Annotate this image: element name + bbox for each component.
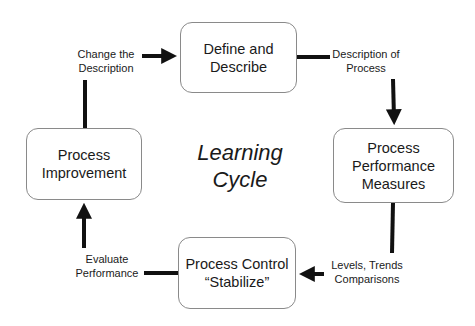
node-label: Define and Describe bbox=[203, 40, 273, 76]
node-process-improvement: Process Improvement bbox=[26, 128, 142, 200]
edge-label-change-description: Change the Description bbox=[70, 47, 142, 75]
node-process-performance-measures: Process Performance Measures bbox=[333, 128, 454, 203]
diagram-title: Learning Cycle bbox=[180, 139, 300, 193]
node-label: Process Control “Stabilize” bbox=[185, 255, 288, 291]
arrow-define-to-measures bbox=[393, 79, 394, 118]
node-label: Process Improvement bbox=[42, 146, 127, 182]
arrow-measures-to-control-vertical bbox=[392, 203, 393, 253]
node-label: Process Performance Measures bbox=[352, 139, 435, 193]
edge-label-levels-trends: Levels, Trends Comparisons bbox=[323, 258, 411, 286]
edge-label-description-of-process: Description of Process bbox=[326, 47, 406, 75]
node-define-and-describe: Define and Describe bbox=[180, 22, 297, 93]
node-process-control: Process Control “Stabilize” bbox=[178, 237, 296, 309]
edge-label-evaluate-performance: Evaluate Performance bbox=[64, 252, 150, 280]
